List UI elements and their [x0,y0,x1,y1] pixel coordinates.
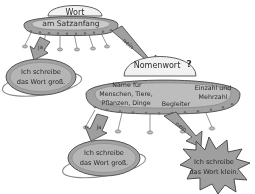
outcome-1-line2: das Wort groß. [17,78,65,86]
decision-2-dome-label: Nomenwort [134,61,181,70]
decision-2-attr-2: Pflanzen, Dinge [101,99,150,107]
outcome-3-line1: Ich schreibe [194,158,234,166]
outcome-1-line1: Ich schreibe [21,68,61,76]
edge-ja-1-label: ja [37,44,44,51]
edge-ja-2-label: ja [95,124,102,131]
outcome-node-gross-2[interactable]: Ich schreibe das Wort groß. [61,140,147,182]
decision-2-attr-4: Einzahl und [195,84,232,91]
decision-2-attr-3: Begleiter [162,100,191,108]
outcome-2-line1: Ich schreibe [84,149,124,157]
outcome-node-klein[interactable]: Ich schreibe das Wort klein. [180,137,250,194]
decision-1-dome-label: Wort [66,8,85,17]
decision-2-attr-0: Name für [112,81,142,88]
decision-2-attr-5: Mehrzahl [199,93,228,100]
edge-ja-1: ja [30,37,50,60]
decision-node-nomenwort[interactable]: Nomenwort ? Name für Menschen, Tiere, Pf… [83,57,240,135]
decision-2-dome-marker: ? [186,59,191,69]
outcome-node-gross-1[interactable]: Ich schreibe das Wort groß. [1,59,83,100]
outcome-3-line2: das Wort klein. [189,168,238,176]
outcome-2-line2: das Wort groß. [80,159,128,167]
diagram-canvas: Wort am Satzanfang ja nein Ich schreibe … [0,0,255,194]
decision-2-attr-1: Menschen, Tiere, [99,90,153,97]
flowchart-svg: Wort am Satzanfang ja nein Ich schreibe … [0,0,255,194]
decision-1-body-label: am Satzanfang [42,19,100,28]
